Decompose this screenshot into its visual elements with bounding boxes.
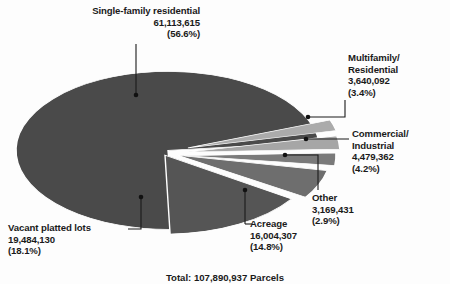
label-commercial-percent: (4.2%) — [352, 163, 409, 175]
label-acreage: Acreage 16,004,307 (14.8%) — [250, 218, 297, 253]
label-single-family-percent: (56.6%) — [30, 28, 200, 40]
label-multifamily-name-line1: Multifamily/ — [348, 52, 400, 64]
label-single-family-value: 61,113,615 — [30, 17, 200, 29]
label-other: Other 3,169,431 (2.9%) — [312, 192, 354, 227]
leader-dot-multifamily — [306, 115, 311, 120]
label-vacant-name: Vacant platted lots — [8, 222, 91, 234]
label-multifamily-residential: Multifamily/ Residential 3,640,092 (3.4%… — [348, 52, 400, 98]
label-vacant-value: 19,484,130 — [8, 234, 91, 246]
label-multifamily-percent: (3.4%) — [348, 87, 400, 99]
label-acreage-value: 16,004,307 — [250, 230, 297, 242]
label-vacant-percent: (18.1%) — [8, 245, 91, 257]
leader-dot-other — [283, 153, 288, 158]
label-other-value: 3,169,431 — [312, 204, 354, 216]
label-commercial-name-line1: Commercial/ — [352, 128, 409, 140]
leader-dot-acreage — [243, 188, 248, 193]
pie-slices-group — [16, 71, 340, 234]
leader-dot-vacant — [139, 195, 144, 200]
label-other-percent: (2.9%) — [312, 215, 354, 227]
leader-dot-single-family — [134, 93, 139, 98]
label-multifamily-value: 3,640,092 — [348, 75, 400, 87]
chart-total-caption: Total: 107,890,937 Parcels — [0, 272, 450, 283]
label-commercial-value: 4,479,362 — [352, 151, 409, 163]
label-acreage-name: Acreage — [250, 218, 297, 230]
label-commercial-industrial: Commercial/ Industrial 4,479,362 (4.2%) — [352, 128, 409, 174]
label-single-family-name: Single-family residential — [30, 5, 200, 17]
label-commercial-name-line2: Industrial — [352, 140, 409, 152]
leader-dot-commercial — [304, 137, 309, 142]
label-acreage-percent: (14.8%) — [250, 241, 297, 253]
label-single-family-residential: Single-family residential 61,113,615 (56… — [30, 5, 200, 40]
label-multifamily-name-line2: Residential — [348, 64, 400, 76]
label-vacant-platted-lots: Vacant platted lots 19,484,130 (18.1%) — [8, 222, 91, 257]
leader-line-multifamily — [308, 100, 345, 117]
label-other-name: Other — [312, 192, 354, 204]
